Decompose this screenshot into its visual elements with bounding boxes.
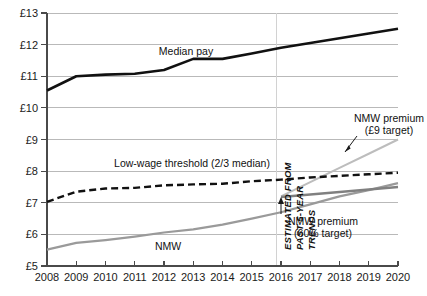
label-premium60-line-1: NMW premium	[288, 215, 358, 227]
x-tick-label-2011: 2011	[123, 271, 147, 283]
wage-projection-chart: £13 £12 £11 £10 £9 £8 £7 £6 £5 2008	[0, 0, 427, 296]
x-tick-label-2014: 2014	[210, 271, 234, 283]
label-premium9-line-2: (£9 target)	[365, 124, 413, 136]
y-tick-label-13: £13	[20, 7, 38, 19]
x-tick-label-2008: 2008	[35, 271, 59, 283]
y-tick-label-9: £9	[26, 134, 38, 146]
label-premium9-line-1: NMW premium	[354, 112, 424, 124]
x-tick-label-2018: 2018	[327, 271, 351, 283]
chart-canvas: £13 £12 £11 £10 £9 £8 £7 £6 £5 2008	[0, 0, 427, 296]
x-tick-label-2017: 2017	[298, 271, 322, 283]
x-tick-label-2020: 2020	[386, 271, 410, 283]
y-tick-label-12: £12	[20, 39, 38, 51]
label-premium60-line-2: (60% target)	[294, 227, 352, 239]
x-tick-label-2013: 2013	[181, 271, 205, 283]
x-tick-label-2016: 2016	[269, 271, 293, 283]
x-tick-label-2009: 2009	[64, 271, 88, 283]
x-tick-label-2019: 2019	[357, 271, 381, 283]
label-median-pay: Median pay	[159, 45, 214, 57]
y-tick-label-10: £10	[20, 102, 38, 114]
label-low-wage-threshold: Low-wage threshold (2/3 median)	[114, 157, 270, 169]
x-tick-label-2010: 2010	[93, 271, 117, 283]
y-tick-label-7: £7	[26, 197, 38, 209]
x-tick-label-2012: 2012	[152, 271, 176, 283]
y-tick-label-11: £11	[20, 70, 38, 82]
y-tick-label-6: £6	[26, 228, 38, 240]
x-tick-label-2015: 2015	[240, 271, 264, 283]
y-tick-label-8: £8	[26, 165, 38, 177]
estimate-note-line-1: ESTIMATED FROM	[282, 162, 293, 250]
label-nmw: NMW	[155, 240, 181, 252]
